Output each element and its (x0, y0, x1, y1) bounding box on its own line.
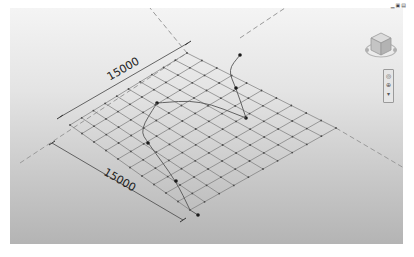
grid-node (151, 74, 153, 76)
grid-node (291, 120, 293, 122)
grid-node (130, 119, 132, 121)
grid-node (207, 168, 209, 170)
grid-node (320, 120, 322, 122)
grid-node (142, 112, 144, 114)
grid-node (233, 90, 235, 92)
grid-node (177, 201, 179, 203)
grid-node (234, 105, 236, 107)
grid-node (262, 168, 264, 170)
grid-node (277, 113, 279, 115)
grid-node (118, 126, 120, 128)
grid-node (181, 168, 183, 170)
grid-node (191, 82, 193, 84)
grid-node (247, 97, 249, 99)
close-icon[interactable]: ▤ (401, 2, 406, 8)
grid-node (234, 168, 236, 170)
grid-node (221, 160, 223, 162)
minimize-icon[interactable]: ▁ (391, 2, 395, 8)
grid-node (93, 110, 95, 112)
grid-node (167, 176, 169, 178)
grid-node (194, 160, 196, 162)
grid-node (104, 103, 106, 105)
grid-node (189, 67, 191, 69)
grid-node (235, 152, 237, 154)
navigation-bar: ◎ ⊕ ▾ (383, 69, 394, 103)
grid-node (291, 152, 293, 154)
grid-node (208, 136, 210, 138)
grid-node (305, 112, 307, 114)
3d-viewport[interactable]: 1500015000 ◎ ⊕ ▾ (10, 8, 403, 244)
grid-node (206, 184, 208, 186)
zoom-icon[interactable]: ⊕ (385, 81, 392, 88)
grid-node (105, 134, 107, 136)
grid-node (163, 67, 165, 69)
grid-node (181, 120, 183, 122)
dimension-line (60, 43, 188, 117)
grid-node (216, 67, 218, 69)
control-point (238, 53, 242, 57)
dimension-tick (57, 115, 63, 119)
restore-icon[interactable]: ▣ (396, 2, 401, 8)
grid-node (142, 159, 144, 161)
grid-node (290, 105, 292, 107)
grid-node (93, 125, 95, 127)
grid-node (165, 82, 167, 84)
grid-node (130, 151, 132, 153)
reference-plane (240, 8, 285, 38)
grid-node (195, 144, 197, 146)
grid-node (249, 144, 251, 146)
grid-node (177, 74, 179, 76)
grid-node (168, 160, 170, 162)
grid-node (69, 124, 71, 126)
grid-node (218, 82, 220, 84)
grid-node (118, 142, 120, 144)
grid-node (249, 128, 251, 130)
grid-node (306, 128, 308, 130)
grid-node (249, 160, 251, 162)
control-point (174, 179, 178, 183)
grid-node (277, 128, 279, 130)
control-point (234, 86, 238, 90)
grid-node (206, 90, 208, 92)
grid-node (181, 105, 183, 107)
reference-plane (336, 128, 403, 168)
grid-node (263, 120, 265, 122)
grid-node (155, 167, 157, 169)
grid-node (156, 135, 158, 137)
grid-node (105, 118, 107, 120)
grid-node (335, 127, 337, 129)
grid-node (139, 81, 141, 83)
grid-node (143, 143, 145, 145)
grid-node (195, 128, 197, 130)
grid-node (179, 184, 181, 186)
grid-node (204, 75, 206, 77)
grid-node (130, 135, 132, 137)
grid-node (263, 152, 265, 154)
view-cube[interactable] (364, 28, 398, 62)
grid-node (222, 144, 224, 146)
chevron-down-icon[interactable]: ▾ (385, 90, 392, 97)
grid-node (220, 176, 222, 178)
grid-node (235, 121, 237, 123)
grid-node (204, 201, 206, 203)
grid-node (321, 135, 323, 137)
model-canvas[interactable]: 1500015000 (10, 8, 403, 244)
grid-node (208, 152, 210, 154)
grid-node (208, 120, 210, 122)
grid-node (169, 144, 171, 146)
grid-node (277, 160, 279, 162)
grid-node (277, 144, 279, 146)
grid-node (93, 141, 95, 143)
window-controls: ▁ ▣ ▤ (391, 2, 406, 8)
grid-node (191, 193, 193, 195)
grid-node (105, 150, 107, 152)
grid-node (218, 193, 220, 195)
grid-node (168, 112, 170, 114)
steering-wheel-icon[interactable]: ◎ (385, 72, 392, 79)
grid-node (263, 136, 265, 138)
grid-node (116, 95, 118, 97)
view-cube-icon (364, 28, 398, 62)
grid-node (222, 128, 224, 130)
grid-node (129, 167, 131, 169)
grid-node (233, 185, 235, 187)
